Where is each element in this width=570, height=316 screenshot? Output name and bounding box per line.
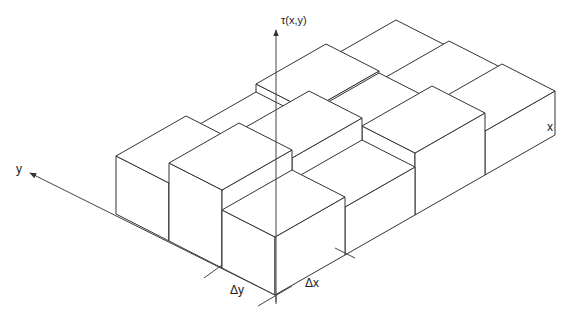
dy-tick <box>204 265 222 278</box>
delta-x-label: Δx <box>305 276 319 290</box>
histogram-bars <box>116 20 555 295</box>
x-axis-label: x <box>547 120 553 134</box>
y-axis-label: y <box>16 162 22 176</box>
histogram-diagram: τ(x,y) y x Δy Δx <box>0 0 570 316</box>
delta-y-label: Δy <box>230 283 244 297</box>
tau-axis-label: τ(x,y) <box>281 14 307 26</box>
